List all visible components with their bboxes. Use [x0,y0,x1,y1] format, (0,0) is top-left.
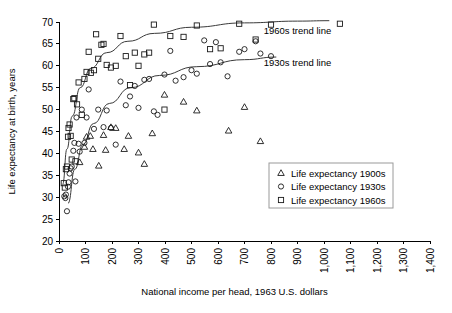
scatter-plot: 2025303540455055606570010020030040050060… [0,0,452,313]
trend-line-label: 1960s trend line [264,25,332,36]
data-point-circle [237,49,242,54]
data-point-square [118,33,123,38]
data-point-square [337,21,342,26]
y-tick-label: 35 [42,170,54,181]
x-tick-label: 900 [292,248,303,265]
data-point-circle [155,112,160,117]
data-point-triangle [225,127,232,133]
data-point-square [151,22,156,27]
data-point-triangle [180,98,187,104]
data-point-circle [242,47,247,52]
x-tick-label: 0 [54,248,65,254]
y-tick-label: 65 [42,38,54,49]
data-point-circle [168,48,173,53]
chart-legend: Life expectancy 1900sLife expectancy 193… [269,163,393,208]
axis-ticks-layer: 2025303540455055606570010020030040050060… [42,17,436,274]
data-point-circle [258,51,263,56]
trend-line-label: 1930s trend line [264,57,332,68]
y-tick-label: 30 [42,192,54,203]
data-point-triangle [161,91,168,97]
chart-figure: 2025303540455055606570010020030040050060… [0,0,452,313]
legend-label: Life expectancy 1930s [291,181,386,192]
legend-entry: Life expectancy 1960s [278,195,385,206]
data-point-circle [74,115,79,120]
legend-label: Life expectancy 1900s [291,168,386,179]
data-point-circle [136,105,141,110]
data-point-circle [194,71,199,76]
x-tick-label: 500 [186,248,197,265]
data-point-circle [127,94,132,99]
data-point-square [69,157,74,162]
data-point-triangle [90,146,97,152]
x-tick-label: 1,100 [345,248,356,273]
data-point-square [136,63,141,68]
legend-entry: Life expectancy 1900s [278,168,386,179]
data-point-square [162,107,167,112]
x-tick-label: 1,400 [425,248,436,273]
x-tick-label: 700 [239,248,250,265]
data-point-square [127,82,132,87]
data-point-square [123,54,128,59]
data-point-square [237,21,242,26]
data-point-circle [86,87,91,92]
y-tick-label: 25 [42,214,54,225]
data-point-triangle [135,149,142,155]
data-point-triangle [125,133,131,139]
legend-entry: Life expectancy 1930s [278,181,385,192]
y-tick-label: 40 [42,148,54,159]
legend-label: Life expectancy 1960s [291,195,386,206]
data-point-circle [253,39,258,44]
data-point-circle [225,74,230,79]
data-point-square [86,49,91,54]
trend-line-path [68,57,276,203]
trend-line-annotations: 1960s trend line1930s trend line [264,25,332,68]
data-point-circle [71,148,76,153]
data-point-square [79,112,84,117]
data-point-circle [213,40,218,45]
y-axis-title: Life expectancy at birth, years [6,68,17,194]
data-point-circle [173,78,178,83]
data-point-triangle [141,161,148,167]
x-tick-label: 100 [80,248,91,265]
data-point-square [168,33,173,38]
x-tick-label: 300 [133,248,144,265]
data-point-triangle [257,138,264,144]
data-point-circle [202,38,207,43]
x-tick-label: 1,300 [398,248,409,273]
data-point-circle [101,125,106,130]
data-point-triangle [194,107,201,113]
trend-line-path [63,21,330,184]
data-point-triangle [100,132,107,138]
data-point-circle [91,126,96,131]
data-point-triangle [121,146,128,152]
x-axis-title: National income per head, 1963 U.S. doll… [141,286,328,297]
y-tick-label: 55 [42,82,54,93]
y-tick-label: 50 [42,104,54,115]
data-point-circle [96,107,101,112]
data-point-triangle [241,104,248,110]
series-circle [62,38,274,214]
data-point-square [218,46,223,51]
x-tick-label: 800 [266,248,277,265]
data-point-circle [189,68,194,73]
y-tick-label: 45 [42,126,54,137]
x-tick-label: 400 [160,248,171,265]
data-point-circle [181,75,186,80]
data-point-circle [73,179,78,184]
x-tick-label: 600 [213,248,224,265]
x-tick-label: 200 [107,248,118,265]
data-point-square [76,80,81,85]
data-point-circle [118,79,123,84]
y-tick-label: 20 [42,236,54,247]
data-point-triangle [149,130,156,136]
x-tick-label: 1,200 [372,248,383,273]
y-tick-label: 70 [42,17,54,28]
data-point-square [207,47,212,52]
data-point-circle [79,107,84,112]
data-point-square [132,50,137,55]
data-point-square [94,32,99,37]
data-point-circle [64,209,69,214]
data-point-triangle [102,147,109,153]
data-point-circle [113,142,118,147]
data-point-triangle [96,162,103,168]
